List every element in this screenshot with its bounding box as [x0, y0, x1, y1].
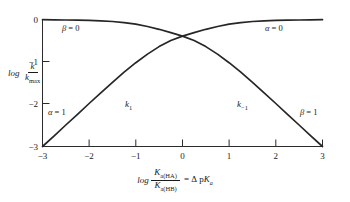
annotation-beta-zero: β = 0 [62, 24, 80, 33]
x-axis-label: log Ka(HA) Ka(HB) = Δ pKa [0, 168, 350, 193]
y-axis-label-fraction: k kmax [22, 62, 43, 84]
curve-k-minus-1 [43, 20, 323, 147]
x-axis-label-numerator: Ka(HA) [151, 168, 180, 181]
x-axis-label-rhs: = Δ pKa [184, 175, 213, 186]
x-tick-label-minus1: −1 [131, 151, 141, 161]
x-tick-label-3: 3 [320, 151, 325, 161]
curve-k1 [43, 20, 323, 147]
y-tick-label-0: 0 [34, 15, 39, 25]
curve-label-k1: k1 [125, 100, 132, 111]
annotation-alpha-one: α = 1 [48, 108, 66, 117]
y-tick-label-minus3: −3 [28, 142, 38, 152]
x-tick-label-2: 2 [274, 151, 279, 161]
y-axis-label-denominator: kmax [22, 73, 43, 85]
x-axis-label-fraction: Ka(HA) Ka(HB) [151, 168, 180, 193]
y-axis-ticks [43, 20, 50, 147]
eigen-plot-figure: 0 −1 −2 −3 −3 −2 −1 0 1 2 3 log k kmax l… [0, 0, 350, 202]
x-tick-label-minus2: −2 [84, 151, 94, 161]
y-axis-label-numerator: k [28, 62, 38, 73]
y-tick-label-minus2: −2 [28, 99, 38, 109]
annotation-beta-one: β = 1 [300, 108, 318, 117]
x-axis-label-log: log [137, 176, 149, 185]
curve-label-k-minus-1: k−1 [237, 100, 248, 111]
x-tick-label-1: 1 [227, 151, 232, 161]
x-tick-label-0: 0 [180, 151, 185, 161]
x-axis-ticks [43, 140, 323, 147]
x-axis-label-denominator: Ka(HB) [151, 181, 179, 193]
y-axis-label: log k kmax [8, 62, 43, 84]
y-axis-label-log: log [8, 69, 20, 78]
annotation-alpha-zero: α = 0 [265, 24, 283, 33]
x-tick-label-minus3: −3 [38, 151, 48, 161]
